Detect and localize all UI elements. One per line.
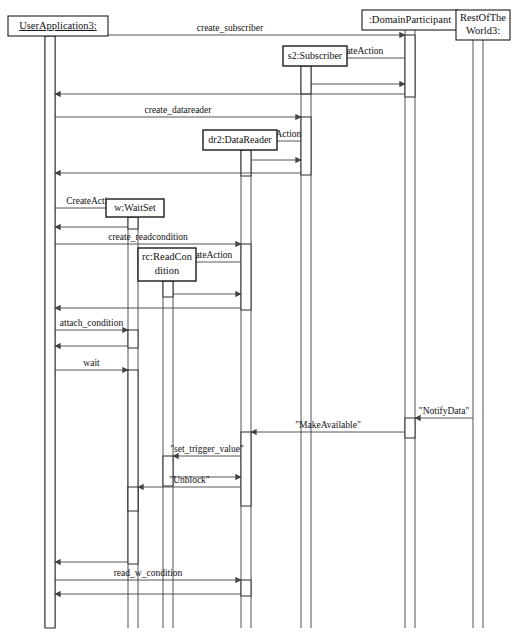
- message-m24: read_w_condition: [55, 568, 241, 580]
- activation-a-dp-2: [405, 418, 415, 438]
- lifeline-header-waitset[interactable]: w:WaitSet: [106, 199, 164, 217]
- messages-layer: create_subscriberCreateActioncreate_data…: [55, 23, 473, 594]
- message-m15: attach_condition: [55, 318, 128, 330]
- lifeline-label-line2: World3:: [466, 25, 500, 36]
- message-label: attach_condition: [60, 318, 124, 328]
- lifeline-header-rest[interactable]: RestOfTheWorld3:: [456, 10, 510, 40]
- message-m17: wait: [55, 358, 128, 370]
- lifeline-rest: [473, 40, 483, 628]
- lifeline-header-user[interactable]: UserApplication3:: [8, 16, 108, 36]
- message-label: "NotifyData": [419, 406, 470, 416]
- activation-a-rc-1: [163, 281, 173, 297]
- activation-a-dp-1: [405, 35, 415, 97]
- message-label: create_readcondition: [108, 232, 188, 242]
- message-m11: create_readcondition: [55, 232, 241, 244]
- activation-a-reader-2: [241, 244, 251, 310]
- activation-a-waitset-1: [128, 217, 138, 229]
- activation-a-reader-1: [241, 150, 251, 176]
- activations-layer: [45, 35, 415, 628]
- message-label: wait: [83, 358, 100, 368]
- lifeline-label: s2:Subscriber: [288, 50, 343, 61]
- lifeline-label-line1: RestOfThe: [460, 12, 506, 23]
- message-m5: create_datareader: [55, 105, 301, 117]
- lifeline-label-line1: rc:ReadCon: [142, 251, 193, 262]
- sequence-diagram-canvas: create_subscriberCreateActioncreate_data…: [0, 0, 518, 639]
- activation-a-waitset-2: [128, 330, 138, 348]
- message-label: create_datareader: [145, 105, 213, 115]
- lifeline-header-rc[interactable]: rc:ReadCondition: [138, 248, 196, 281]
- lifeline-label: dr2:DataReader: [208, 134, 272, 145]
- lifeline-reader: [241, 150, 251, 628]
- activation-a-sub-2: [301, 117, 311, 175]
- message-label: create_subscriber: [197, 23, 264, 33]
- message-label: "set_trigger_value": [170, 444, 244, 454]
- lifeline-header-dp[interactable]: :DomainParticipant: [362, 10, 458, 30]
- message-label: read_w_condition: [114, 568, 183, 578]
- activation-a-sub-1: [301, 66, 311, 94]
- message-label: "MakeAvailable": [295, 420, 361, 430]
- message-m19: "MakeAvailable": [251, 420, 405, 432]
- lifeline-label-line2: dition: [155, 265, 180, 276]
- activation-a-reader-4: [241, 580, 251, 596]
- activation-a-waitset-3: [128, 370, 138, 564]
- activation-a-user-main: [45, 36, 55, 628]
- lifeline-label: :DomainParticipant: [369, 14, 451, 25]
- lifeline-dp: [405, 30, 415, 628]
- lifeline-label: w:WaitSet: [114, 202, 156, 213]
- activation-a-waitset-4: [128, 487, 138, 511]
- message-m18: "NotifyData": [415, 406, 473, 418]
- uml-sequence-diagram: create_subscriberCreateActioncreate_data…: [0, 0, 518, 639]
- lifeline-headers-layer: UserApplication3:s2:Subscriberdr2:DataRe…: [8, 10, 510, 281]
- lifeline-label: UserApplication3:: [19, 20, 97, 31]
- message-m20: "set_trigger_value": [170, 444, 244, 456]
- lifeline-header-sub[interactable]: s2:Subscriber: [283, 46, 347, 66]
- message-label: "Unblock": [169, 475, 210, 485]
- lifeline-header-reader[interactable]: dr2:DataReader: [203, 130, 277, 150]
- lifelines-layer: [45, 30, 483, 628]
